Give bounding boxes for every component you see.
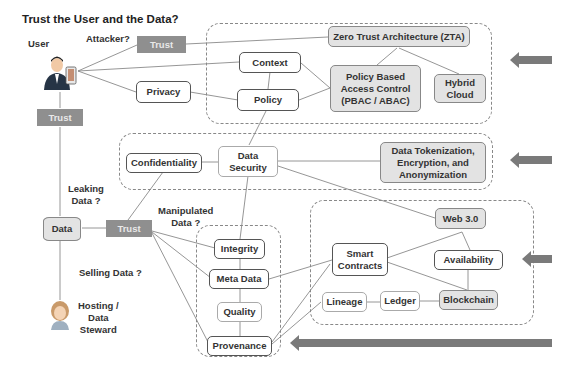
- meta-data-label: Meta Data: [217, 273, 262, 285]
- tokenization-line-2: Encryption, and: [397, 157, 469, 169]
- steward-label: Hosting / Data Steward: [78, 300, 119, 336]
- provenance-label: Provenance: [213, 340, 267, 352]
- availability-label: Availability: [444, 254, 494, 266]
- context-label: Context: [252, 57, 287, 69]
- availability-node: Availability: [434, 250, 503, 270]
- manipulated-question: Manipulated Data ?: [158, 205, 213, 229]
- confidentiality-label: Confidentiality: [131, 157, 197, 169]
- quality-node: Quality: [217, 302, 262, 322]
- policy-label: Policy: [254, 94, 282, 106]
- hybrid-line-2: Cloud: [447, 89, 474, 101]
- lineage-node: Lineage: [322, 292, 367, 312]
- trust-label-mid: Trust: [106, 220, 152, 237]
- trust-label-top: Trust: [137, 36, 186, 53]
- hybrid-line-1: Hybrid: [445, 77, 475, 89]
- data-store-label: Data: [52, 223, 73, 235]
- lineage-label: Lineage: [327, 296, 363, 308]
- smart-contracts-line-1: Smart: [347, 248, 374, 260]
- context-node: Context: [239, 52, 301, 73]
- pbac-line-1: Policy Based: [346, 71, 405, 83]
- blockchain-node: Blockchain: [439, 290, 498, 310]
- data-security-line-1: Data: [238, 150, 259, 162]
- user-label: User: [28, 38, 49, 50]
- ledger-node: Ledger: [380, 291, 420, 311]
- selling-question: Selling Data ?: [79, 267, 142, 279]
- pbac-line-2: Access Control: [341, 83, 411, 95]
- policy-node: Policy: [237, 89, 299, 111]
- zta-label: Zero Trust Architecture (ZTA): [333, 31, 464, 43]
- smart-contracts-node: Smart Contracts: [332, 243, 388, 276]
- tokenization-node: Data Tokenization, Encryption, and Anony…: [380, 142, 486, 183]
- hybrid-cloud-node: Hybrid Cloud: [434, 74, 486, 103]
- blockchain-label: Blockchain: [443, 294, 494, 306]
- integrity-node: Integrity: [214, 239, 265, 259]
- tokenization-line-1: Data Tokenization,: [391, 145, 474, 157]
- zta-node: Zero Trust Architecture (ZTA): [328, 26, 470, 47]
- arrow-left-icon: [522, 251, 552, 267]
- arrow-left-icon: [510, 152, 552, 168]
- pbac-line-3: (PBAC / ABAC): [341, 95, 409, 107]
- web3-node: Web 3.0: [435, 208, 486, 229]
- smart-contracts-line-2: Contracts: [338, 260, 382, 272]
- leaking-question: Leaking Data ?: [68, 183, 104, 207]
- attacker-question: Attacker?: [86, 33, 130, 45]
- data-security-line-2: Security: [229, 162, 267, 174]
- user-with-phone-icon: [42, 54, 80, 90]
- web3-label: Web 3.0: [443, 213, 479, 225]
- provenance-node: Provenance: [207, 336, 272, 356]
- integrity-label: Integrity: [221, 243, 258, 255]
- quality-label: Quality: [223, 306, 255, 318]
- pbac-node: Policy Based Access Control (PBAC / ABAC…: [330, 65, 421, 112]
- data-steward-icon: [48, 300, 72, 330]
- data-security-node: Data Security: [218, 146, 278, 177]
- meta-data-node: Meta Data: [209, 269, 269, 289]
- privacy-label: Privacy: [147, 86, 181, 98]
- tokenization-line-3: Anonymization: [399, 169, 467, 181]
- ledger-label: Ledger: [384, 295, 416, 307]
- arrow-left-icon: [510, 52, 552, 68]
- trust-label-left: Trust: [37, 109, 83, 126]
- data-store-node: Data: [43, 217, 81, 241]
- confidentiality-node: Confidentiality: [126, 153, 202, 173]
- privacy-node: Privacy: [136, 81, 191, 103]
- long-arrow-left-icon: [290, 335, 552, 351]
